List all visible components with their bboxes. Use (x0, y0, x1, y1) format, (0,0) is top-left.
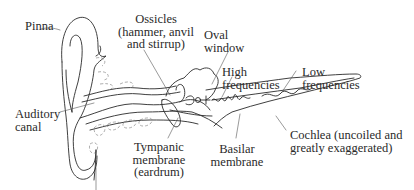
auditory-canal (80, 100, 210, 118)
label-tympanic-membrane: Tympanic membrane (eardrum) (126, 141, 192, 179)
label-low-frequencies: Low frequencies (302, 66, 360, 91)
label-auditory-canal: Auditory canal (15, 108, 60, 133)
label-high-frequencies: High frequencies (222, 66, 280, 91)
label-cochlea: Cochlea (uncoiled and greatly exaggerate… (290, 129, 402, 154)
label-ossicles: Ossicles (hammer, anvil and stirrup) (110, 13, 202, 51)
label-pinna: Pinna (25, 20, 53, 33)
label-basilar-membrane: Basilar membrane (207, 143, 267, 168)
label-oval-window: Oval window (204, 29, 244, 54)
ear-diagram: Pinna Ossicles (hammer, anvil and stirru… (0, 0, 414, 190)
ossicles (166, 68, 218, 100)
